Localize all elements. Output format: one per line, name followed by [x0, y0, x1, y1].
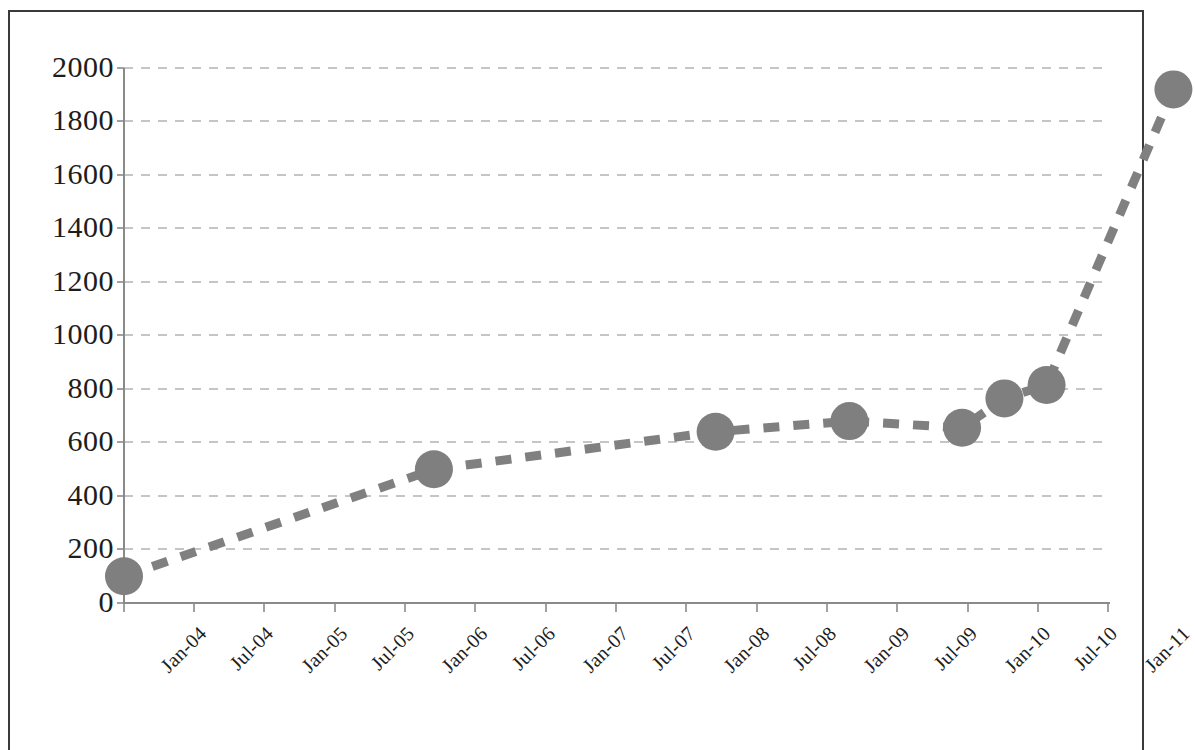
x-tick-label: Jan-04 [156, 622, 211, 677]
x-tick-label: Jul-07 [647, 622, 700, 675]
x-tick-label: Jul-06 [507, 622, 560, 675]
x-tick-label: Jan-09 [859, 622, 914, 677]
x-tick-label: Jan-10 [1000, 622, 1055, 677]
x-tick-label: Jan-07 [578, 622, 633, 677]
x-tick-label: Jul-10 [1069, 622, 1122, 675]
data-point-marker [1154, 70, 1192, 108]
x-tick-label: Jul-08 [788, 622, 841, 675]
x-tick-label: Jan-06 [437, 622, 492, 677]
x-tick-label: Jul-09 [929, 622, 982, 675]
x-tick-label: Jan-11 [1140, 622, 1195, 677]
x-tick-label: Jul-05 [366, 622, 419, 675]
x-tick-label: Jan-08 [719, 622, 774, 677]
x-tick-label: Jan-05 [297, 622, 352, 677]
x-tick-label: Jul-04 [225, 622, 278, 675]
